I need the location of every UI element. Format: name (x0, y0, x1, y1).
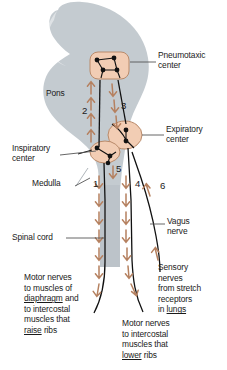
pathway-number-5: 5 (116, 163, 121, 174)
pathway-number-6: 6 (160, 180, 165, 191)
text-line: Sensory (158, 262, 226, 273)
pathway-number-4: 4 (135, 178, 140, 189)
text-line: muscles that (122, 339, 218, 350)
text-line: raise ribs (24, 325, 120, 336)
text-line: lower ribs (122, 350, 218, 361)
spinal-cord-column (100, 185, 120, 267)
text-line: nerves (158, 273, 226, 284)
text-block-motor-nerves-diaphragm: Motor nervesto muscles ofdiaphragm andto… (24, 272, 120, 336)
text-block-sensory-nerves-stretch: Sensorynervesfrom stretchreceptorsin lun… (158, 262, 226, 315)
text-line: to intercostal (122, 329, 218, 340)
emphasized-term: lungs (167, 304, 187, 314)
text-line: receptors (158, 294, 226, 305)
label-pons: Pons (46, 88, 65, 98)
label-pneumotaxic-center: Pneumotaxic center (158, 50, 205, 71)
pathway-number-2: 2 (82, 105, 87, 116)
leader-medulla (75, 178, 90, 186)
text-line: muscles that (24, 314, 120, 325)
label-medulla: Medulla (32, 178, 61, 188)
emphasized-term: diaphragm (24, 293, 63, 303)
text-line: to intercostal (24, 304, 120, 315)
label-vagus-nerve: Vagus nerve (167, 216, 190, 237)
text-line: in lungs (158, 304, 226, 315)
label-inspiratory-center: Inspiratory center (12, 143, 50, 164)
label-spinal-cord: Spinal cord (12, 232, 53, 242)
text-line: Motor nerves (122, 318, 218, 329)
text-line: to muscles of (24, 283, 120, 294)
text-line: diaphragm and (24, 293, 120, 304)
emphasized-term: raise (24, 325, 42, 335)
arrow-column-ascending-6 (143, 184, 159, 260)
pneumotaxic-center-nucleus (90, 52, 129, 79)
label-expiratory-center: Expiratory center (166, 124, 203, 145)
text-block-motor-nerves-lower-ribs: Motor nervesto intercostalmuscles thatlo… (122, 318, 218, 360)
pathway-number-3: 3 (121, 100, 126, 111)
respiratory-control-diagram: Pneumotaxic center Expiratory center Ins… (0, 0, 227, 370)
text-line: from stretch (158, 283, 226, 294)
pathway-number-1: 1 (93, 178, 98, 189)
emphasized-term: lower (122, 350, 142, 360)
text-line: Motor nerves (24, 272, 120, 283)
